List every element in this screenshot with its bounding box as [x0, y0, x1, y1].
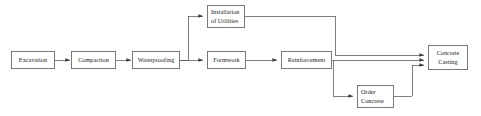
node-waterproofing[interactable]: Waterproofing	[132, 51, 180, 69]
node-order-concrete[interactable]: Order Concrete	[357, 85, 394, 108]
construction-flowchart: Excavation Compaction Waterproofing Inst…	[0, 0, 481, 116]
node-concrete-casting[interactable]: Concrete Casting	[428, 45, 468, 70]
node-compaction-label: Compaction	[78, 56, 109, 64]
edge-utilities-casting	[245, 16, 424, 55]
node-excavation[interactable]: Excavation	[11, 51, 55, 69]
node-utilities-label-line1: Installation	[211, 8, 239, 17]
node-formwork[interactable]: Formwork	[207, 51, 246, 69]
node-order-concrete-label-line1: Order	[361, 88, 376, 97]
node-reinforcement-label: Reinforcement	[288, 56, 325, 64]
node-order-concrete-label-line2: Concrete	[361, 97, 384, 106]
node-formwork-label: Formwork	[213, 56, 240, 64]
node-waterproofing-label: Waterproofing	[138, 56, 175, 64]
node-utilities-label-line2: of Utilities	[211, 17, 238, 26]
edge-reinforcement-order-concrete	[333, 61, 353, 96]
edge-waterproofing-utilities	[180, 16, 203, 60]
node-compaction[interactable]: Compaction	[71, 51, 116, 69]
edge-order-concrete-casting	[394, 65, 424, 96]
node-concrete-casting-label-line1: Concrete	[437, 49, 460, 58]
node-installation-of-utilities[interactable]: Installation of Utilities	[207, 5, 245, 28]
node-concrete-casting-label-line2: Casting	[438, 58, 457, 67]
node-reinforcement[interactable]: Reinforcement	[281, 51, 332, 69]
node-excavation-label: Excavation	[19, 56, 47, 64]
